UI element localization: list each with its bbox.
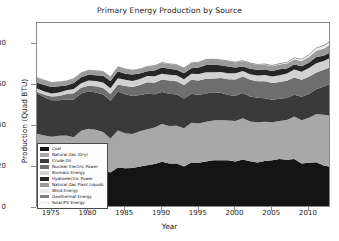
- x-tick-mark: [308, 207, 309, 211]
- legend-item[interactable]: Geothermal Energy: [40, 194, 104, 200]
- y-tick-mark: [31, 125, 36, 126]
- legend-label: Wind Energy: [52, 188, 78, 194]
- legend-swatch: [40, 183, 49, 187]
- legend-label: Natural Gas Plant Liquids: [52, 182, 104, 188]
- x-axis-label: Year: [0, 222, 339, 231]
- y-tick-label: 40: [0, 121, 6, 129]
- legend-swatch: [40, 147, 49, 151]
- legend-item[interactable]: Natural Gas Plant Liquids: [40, 182, 104, 188]
- legend-label: Solar/PV Energy: [52, 200, 85, 206]
- legend-item[interactable]: Nuclear Electric Power: [40, 164, 104, 170]
- chart-title: Primary Energy Production by Source: [0, 6, 339, 15]
- chart-figure: Primary Energy Production by Source Prod…: [0, 0, 339, 241]
- legend-swatch: [40, 195, 49, 199]
- legend-swatch: [40, 165, 49, 169]
- legend-item[interactable]: Biomass Energy: [40, 170, 104, 176]
- x-tick-mark: [234, 207, 235, 211]
- legend-swatch: [40, 189, 49, 193]
- legend-item[interactable]: Wind Energy: [40, 188, 104, 194]
- x-tick-mark: [124, 207, 125, 211]
- y-tick-label: 0: [0, 203, 6, 211]
- legend-label: Hydroelectric Power: [52, 176, 93, 182]
- x-tick-mark: [161, 207, 162, 211]
- y-tick-mark: [31, 166, 36, 167]
- y-tick-mark: [31, 207, 36, 208]
- x-tick-mark: [271, 207, 272, 211]
- legend-label: Natural Gas (Dry): [52, 152, 88, 158]
- legend-swatch: [40, 177, 49, 181]
- legend-item[interactable]: Crude Oil: [40, 158, 104, 164]
- legend-swatch: [40, 153, 49, 157]
- legend-item[interactable]: Coal: [40, 146, 104, 152]
- legend-label: Crude Oil: [52, 158, 71, 164]
- legend-label: Geothermal Energy: [52, 194, 92, 200]
- legend-swatch: [40, 159, 49, 163]
- legend-item[interactable]: Natural Gas (Dry): [40, 152, 104, 158]
- y-tick-label: 60: [0, 80, 6, 88]
- legend-swatch: [40, 171, 49, 175]
- y-tick-label: 80: [0, 39, 6, 47]
- y-tick-label: 20: [0, 162, 6, 170]
- y-tick-mark: [31, 84, 36, 85]
- y-tick-mark: [31, 43, 36, 44]
- chart-legend[interactable]: CoalNatural Gas (Dry)Crude OilNuclear El…: [37, 143, 108, 209]
- legend-label: Coal: [52, 146, 61, 152]
- legend-swatch: [40, 201, 49, 205]
- legend-label: Nuclear Electric Power: [52, 164, 98, 170]
- y-axis-label: Production (Quad BTU): [20, 41, 29, 201]
- legend-label: Biomass Energy: [52, 170, 85, 176]
- legend-item[interactable]: Solar/PV Energy: [40, 200, 104, 206]
- legend-item[interactable]: Hydroelectric Power: [40, 176, 104, 182]
- x-tick-mark: [198, 207, 199, 211]
